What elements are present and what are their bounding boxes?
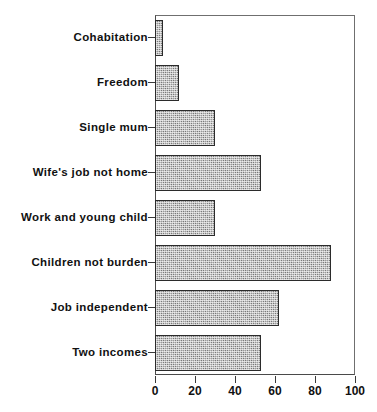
x-axis-tick (195, 376, 196, 383)
y-axis-tick (148, 82, 155, 83)
y-axis-tick (148, 307, 155, 308)
bar-row (155, 60, 179, 105)
y-axis-tick (148, 37, 155, 38)
x-axis-tick-label: 0 (152, 384, 159, 398)
x-axis-ticks (155, 376, 356, 384)
y-axis-tick (148, 127, 155, 128)
bar-wifes-job-not-home[interactable] (155, 155, 261, 191)
y-axis-label: Children not burden (31, 240, 148, 285)
bar-two-incomes[interactable] (155, 335, 261, 371)
bar-row (155, 240, 331, 285)
y-axis-tick (148, 352, 155, 353)
x-axis-tick (355, 376, 356, 383)
bars-layer (155, 15, 356, 376)
x-axis-tick (235, 376, 236, 383)
y-axis-label: Cohabitation (74, 15, 148, 60)
bar-row (155, 15, 163, 60)
y-axis-labels: Cohabitation Freedom Single mum Wife's j… (0, 15, 148, 375)
y-axis-label: Freedom (97, 60, 148, 105)
x-axis-tick-label: 60 (268, 384, 281, 398)
y-axis-tick (148, 217, 155, 218)
y-axis-tick (148, 172, 155, 173)
x-axis-tick (155, 376, 156, 383)
x-axis-tick-label: 100 (345, 384, 365, 398)
y-axis-label: Work and young child (21, 195, 148, 240)
y-axis-label: Wife's job not home (33, 150, 148, 195)
y-axis-label: Single mum (79, 105, 148, 150)
x-axis-tick-label: 80 (308, 384, 321, 398)
bar-row (155, 105, 215, 150)
bar-row (155, 330, 261, 375)
y-axis-label: Job independent (51, 285, 148, 330)
x-axis-tick (275, 376, 276, 383)
bar-row (155, 285, 279, 330)
x-axis-labels: 0 20 40 60 80 100 (155, 384, 356, 404)
bar-job-independent[interactable] (155, 290, 279, 326)
bar-work-and-young-child[interactable] (155, 200, 215, 236)
bar-children-not-burden[interactable] (155, 245, 331, 281)
bar-cohabitation[interactable] (155, 20, 163, 56)
x-axis-tick (315, 376, 316, 383)
bar-chart: Cohabitation Freedom Single mum Wife's j… (0, 0, 377, 412)
bar-freedom[interactable] (155, 65, 179, 101)
x-axis-tick-label: 40 (228, 384, 241, 398)
x-axis-tick-label: 20 (188, 384, 201, 398)
bar-row (155, 195, 215, 240)
bar-row (155, 150, 261, 195)
bar-single-mum[interactable] (155, 110, 215, 146)
y-axis-tick (148, 262, 155, 263)
y-axis-label: Two incomes (72, 330, 148, 375)
